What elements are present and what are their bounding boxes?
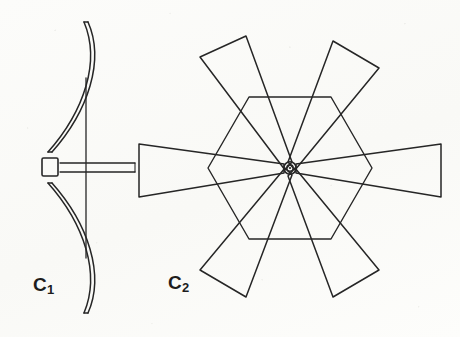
figure-label-c1-letter: C <box>33 274 47 295</box>
windmill-blade-lower-right <box>288 168 379 297</box>
figure-label-c2-letter: C <box>168 272 182 293</box>
bow-group <box>42 22 135 313</box>
figure-label-c2: C2 <box>168 272 189 294</box>
bow-lower-limb-outer <box>52 183 95 313</box>
figure-page: C1 C2 <box>0 0 460 337</box>
bow-upper-limb-outer <box>52 22 95 152</box>
windmill-blade-left <box>139 144 284 197</box>
windmill-blade-right <box>296 144 441 197</box>
windmill-group <box>139 36 441 297</box>
windmill-blade-upper-right <box>288 41 379 170</box>
bow-lower-limb-inner <box>48 183 91 313</box>
figure-label-c1-subscript: 1 <box>47 282 54 297</box>
figure-label-c2-subscript: 2 <box>182 280 189 295</box>
figure-label-c1: C1 <box>33 274 54 296</box>
figure-drawing <box>0 0 460 337</box>
bow-grip-nock-block <box>42 158 58 176</box>
bow-upper-limb-inner <box>48 22 91 152</box>
hub-center-dot <box>289 167 291 169</box>
